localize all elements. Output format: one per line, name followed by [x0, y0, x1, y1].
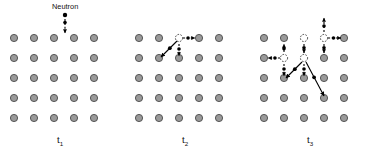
lattice-atom	[320, 114, 327, 121]
lattice-atom	[280, 34, 287, 41]
lattice-atom	[10, 114, 17, 121]
interstitial-atom	[332, 36, 336, 40]
lattice-atom	[30, 94, 37, 101]
lattice-atom	[215, 34, 222, 41]
lattice-atom	[10, 74, 17, 81]
lattice-atom	[260, 94, 267, 101]
lattice-atom	[90, 94, 97, 101]
lattice-atom	[195, 94, 202, 101]
lattice-atom	[30, 54, 37, 61]
lattice-atom	[215, 94, 222, 101]
lattice-atom	[30, 114, 37, 121]
figure-canvas: Neutront1t2t3	[0, 0, 374, 158]
lattice-atom	[215, 114, 222, 121]
collision-node	[168, 46, 172, 50]
lattice-atom	[50, 94, 57, 101]
lattice-atom	[300, 114, 307, 121]
lattice-atom	[340, 74, 347, 81]
lattice-atom	[70, 114, 77, 121]
interstitial-atom	[282, 47, 286, 51]
interstitial-atom	[322, 46, 326, 50]
lattice-atom	[70, 34, 77, 41]
interstitial-atom	[302, 67, 306, 71]
lattice-atom	[155, 114, 162, 121]
lattice-atom	[320, 54, 327, 61]
lattice-atom	[155, 34, 162, 41]
lattice-atom	[50, 34, 57, 41]
vacancy-r1c2	[300, 54, 307, 61]
lattice-atom	[135, 34, 142, 41]
interstitial-atom	[282, 67, 286, 71]
interstitial-atom	[273, 56, 277, 60]
lattice-atom	[50, 114, 57, 121]
collision-node	[293, 67, 297, 71]
radiation-damage-cascade-figure: Neutront1t2t3	[0, 0, 374, 158]
lattice-atom	[90, 34, 97, 41]
lattice-atom	[135, 74, 142, 81]
interstitial-atom	[186, 36, 190, 40]
lattice-atom	[280, 94, 287, 101]
lattice-atom	[10, 34, 17, 41]
lattice-atom	[135, 94, 142, 101]
vacancy-r0c2	[300, 34, 307, 41]
lattice-atom	[155, 54, 162, 61]
lattice-atom	[175, 94, 182, 101]
lattice-atom	[50, 74, 57, 81]
lattice-atom	[90, 114, 97, 121]
lattice-atom	[215, 54, 222, 61]
lattice-atom	[340, 114, 347, 121]
lattice-atom	[90, 74, 97, 81]
lattice-atom	[260, 34, 267, 41]
lattice-atom	[260, 54, 267, 61]
lattice-atom	[340, 34, 347, 41]
lattice-atom	[215, 74, 222, 81]
lattice-atom	[195, 114, 202, 121]
lattice-atom	[175, 54, 182, 61]
lattice-atom	[340, 94, 347, 101]
lattice-atom	[10, 94, 17, 101]
neutron-label: Neutron	[52, 2, 78, 11]
time-label-subscript: 2	[185, 140, 189, 147]
vacancy-r0c2	[175, 34, 182, 41]
lattice-atom	[10, 54, 17, 61]
time-label-subscript: 3	[310, 140, 314, 147]
lattice-atom	[155, 74, 162, 81]
vacancy-r1c1	[280, 54, 287, 61]
vacancy-r0c3	[320, 34, 327, 41]
lattice-atom	[280, 114, 287, 121]
lattice-atom	[300, 74, 307, 81]
lattice-atom	[260, 74, 267, 81]
lattice-atom	[175, 114, 182, 121]
interstitial-atom	[302, 46, 306, 50]
lattice-atom	[340, 54, 347, 61]
interstitial-atom	[177, 47, 181, 51]
lattice-atom	[320, 74, 327, 81]
time-label-subscript: 1	[60, 140, 64, 147]
lattice-atom	[300, 94, 307, 101]
lattice-atom	[135, 54, 142, 61]
lattice-atom	[260, 114, 267, 121]
lattice-atom	[90, 54, 97, 61]
neutron-particle	[63, 13, 67, 17]
interstitial-atom	[63, 21, 67, 25]
lattice-atom	[50, 54, 57, 61]
interstitial-atom	[322, 24, 326, 28]
lattice-atom	[135, 114, 142, 121]
lattice-atom	[70, 94, 77, 101]
lattice-atom	[155, 94, 162, 101]
lattice-atom	[30, 74, 37, 81]
lattice-atom	[70, 54, 77, 61]
lattice-atom	[70, 74, 77, 81]
lattice-atom	[195, 54, 202, 61]
lattice-atom	[30, 34, 37, 41]
collision-node	[312, 75, 316, 79]
lattice-atom	[195, 74, 202, 81]
lattice-atom	[175, 74, 182, 81]
lattice-atom	[195, 34, 202, 41]
